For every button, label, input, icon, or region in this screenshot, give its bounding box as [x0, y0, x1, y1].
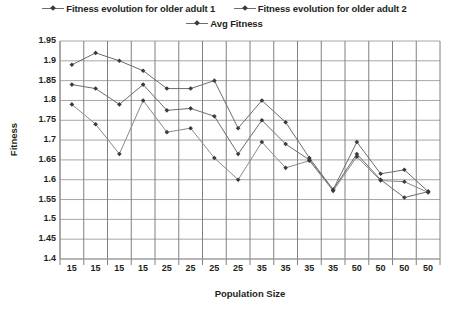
- y-axis-tick-labels: 1.951.91.851.81.751.71.651.61.551.51.451…: [20, 0, 56, 280]
- data-point-marker: [70, 62, 75, 67]
- data-point-marker: [70, 82, 75, 87]
- x-axis-tick-label: 35: [297, 263, 321, 273]
- data-point-marker: [212, 78, 217, 83]
- x-axis-title: Population Size: [60, 288, 440, 299]
- legend-marker-icon: [186, 19, 208, 28]
- x-axis-tick-label: 35: [274, 263, 298, 273]
- x-axis-tick-label: 35: [321, 263, 345, 273]
- x-axis-tick-label: 50: [345, 263, 369, 273]
- y-axis-tick-label: 1.7: [22, 135, 56, 144]
- legend-row-1: Fitness evolution for older adult 1 Fitn…: [0, 0, 449, 15]
- data-point-marker: [93, 51, 98, 56]
- legend-item-older-adult-1[interactable]: Fitness evolution for older adult 1: [42, 1, 215, 15]
- x-axis-tick-label: 50: [369, 263, 393, 273]
- y-axis-tick-label: 1.45: [22, 234, 56, 243]
- y-axis-tick-label: 1.6: [22, 175, 56, 184]
- y-axis-tick-label: 1.55: [22, 195, 56, 204]
- x-axis-tick-label: 50: [392, 263, 416, 273]
- y-axis-tick-label: 1.65: [22, 155, 56, 164]
- legend-label: Fitness evolution for older adult 2: [258, 3, 407, 14]
- y-axis-tick-label: 1.95: [22, 36, 56, 45]
- x-axis-tick-label: 25: [226, 263, 250, 273]
- y-axis-tick-label: 1.8: [22, 95, 56, 104]
- legend-item-older-adult-2[interactable]: Fitness evolution for older adult 2: [234, 1, 407, 15]
- legend-marker-icon: [234, 4, 256, 13]
- legend-row-2: Avg Fitness: [0, 15, 449, 30]
- y-axis-tick-label: 1.4: [22, 254, 56, 263]
- y-axis-tick-label: 1.9: [22, 56, 56, 65]
- x-axis-tick-label: 35: [250, 263, 274, 273]
- legend-item-avg-fitness[interactable]: Avg Fitness: [186, 16, 262, 30]
- fitness-evolution-chart: Fitness evolution for older adult 1 Fitn…: [0, 0, 449, 313]
- data-point-marker: [188, 106, 193, 111]
- chart-legend: Fitness evolution for older adult 1 Fitn…: [0, 0, 449, 30]
- x-axis-tick-label: 15: [60, 263, 84, 273]
- x-axis-tick-label: 15: [84, 263, 108, 273]
- legend-label: Fitness evolution for older adult 1: [66, 3, 215, 14]
- x-axis-tick-label: 25: [179, 263, 203, 273]
- x-axis-tick-label: 25: [155, 263, 179, 273]
- y-axis-tick-label: 1.85: [22, 76, 56, 85]
- data-point-marker: [188, 86, 193, 91]
- y-axis-title: Fitness: [8, 105, 19, 175]
- legend-label: Avg Fitness: [210, 18, 262, 29]
- x-axis-tick-label: 15: [107, 263, 131, 273]
- x-axis-tick-label: 25: [202, 263, 226, 273]
- y-axis-tick-label: 1.5: [22, 214, 56, 223]
- data-point-marker: [117, 59, 122, 64]
- data-point-marker: [212, 114, 217, 119]
- x-axis-tick-label: 50: [416, 263, 440, 273]
- x-axis-tick-label: 15: [131, 263, 155, 273]
- y-axis-tick-label: 1.75: [22, 115, 56, 124]
